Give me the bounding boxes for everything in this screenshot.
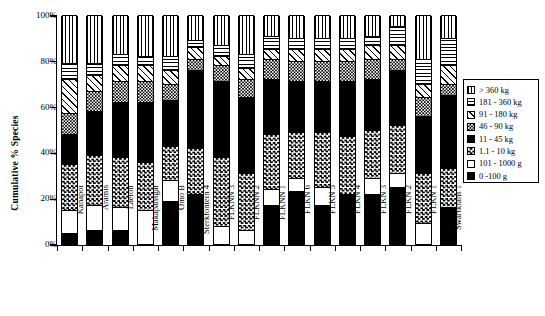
bar-segment: [239, 97, 254, 173]
bar-segment: [113, 102, 128, 157]
x-axis-label-makapansgat: Makapansgat: [149, 185, 161, 251]
bar-segment: [214, 45, 229, 56]
bar-segment: [188, 59, 203, 70]
x-axis-label-flkn-6: FLKN 6: [301, 185, 313, 251]
bar-segment: [264, 15, 279, 36]
bar-segment: [163, 56, 178, 70]
bar-segment: [289, 15, 304, 38]
bar-segment: [62, 134, 77, 164]
bar-segment: [365, 59, 380, 80]
y-axis-ticks: 0%20%40%60%80%100%: [0, 0, 57, 316]
bar-segment: [138, 102, 153, 162]
bar-segment: [264, 134, 279, 189]
bar-segment: [87, 111, 102, 155]
bar-segment: [416, 84, 431, 98]
bar-segment: [264, 79, 279, 134]
legend-swatch-icon: [467, 111, 475, 119]
bar-segment: [62, 63, 77, 79]
bar-segment: [340, 38, 355, 49]
x-axis-label-flknn-3: FLKNN 3: [225, 185, 237, 251]
bar-segment: [214, 81, 229, 157]
bar-segment: [365, 130, 380, 178]
legend-item[interactable]: 1.1 - 10 kg: [467, 145, 535, 157]
bar-segment: [87, 75, 102, 91]
bar-segment: [365, 45, 380, 59]
legend-item[interactable]: 46 - 90 kg: [467, 121, 535, 133]
bar-segment: [441, 15, 456, 38]
bar-segment: [340, 15, 355, 38]
legend-item[interactable]: 91 - 180 kg: [467, 109, 535, 121]
bar-segment: [289, 49, 304, 60]
x-axis-label-swartkrans-1: Swartkrans 1: [452, 185, 464, 251]
x-axis-label-flkn-3: FLKN 3: [377, 185, 389, 251]
legend-swatch-icon: [467, 147, 475, 155]
bar-segment: [138, 56, 153, 65]
bar-segment: [390, 15, 405, 26]
legend-label: 46 - 90 kg: [479, 122, 513, 131]
legend-label: 91 - 180 kg: [479, 110, 517, 119]
legend-item[interactable]: > 360 kg: [467, 84, 535, 96]
x-axis-label-flkn-4: FLKN 4: [351, 185, 363, 251]
legend-item[interactable]: 11 - 45 kg: [467, 133, 535, 145]
x-axis-label-aramis: Aramis: [99, 185, 111, 251]
legend-label: > 360 kg: [479, 86, 509, 95]
bar-segment: [315, 49, 330, 60]
legend-label: 11 - 45 kg: [479, 135, 513, 144]
x-tick-mark: [57, 245, 58, 251]
bar-segment: [239, 15, 254, 54]
bar-segment: [416, 97, 431, 115]
bar-segment: [390, 59, 405, 70]
bar-segment: [365, 15, 380, 36]
bar-segment: [163, 15, 178, 56]
bar-segment: [214, 65, 229, 81]
bar-segment: [87, 15, 102, 63]
legend-swatch-icon: [467, 160, 475, 168]
bar-segment: [289, 38, 304, 49]
bar-segment: [214, 15, 229, 45]
bar-segment: [163, 70, 178, 84]
y-tick-label: 0%: [11, 240, 57, 249]
bar-segment: [239, 68, 254, 79]
bar-segment: [390, 70, 405, 125]
bar-segment: [390, 26, 405, 44]
bar-segment: [214, 56, 229, 65]
bar-segment: [163, 84, 178, 100]
legend-item[interactable]: 181 - 360 kg: [467, 96, 535, 108]
bar-segment: [138, 65, 153, 81]
bar-segment: [188, 70, 203, 148]
y-tick-label: 80%: [11, 57, 57, 66]
stacked-bar-chart-figure: Cumulative % Species 0%20%40%60%80%100% …: [0, 0, 545, 316]
x-axis-label-flkn-5: FLKN 5: [326, 185, 338, 251]
bar-segment: [289, 132, 304, 178]
bar-segment: [113, 81, 128, 102]
x-axis-label-flknn-2: FLKNN 2: [250, 185, 262, 251]
legend-swatch-icon: [467, 123, 475, 131]
bar-segment: [113, 15, 128, 54]
bar-segment: [87, 63, 102, 74]
bar-segment: [188, 15, 203, 40]
legend-label: 181 - 360 kg: [479, 98, 522, 107]
bar-segment: [365, 36, 380, 45]
bar-segment: [289, 81, 304, 131]
bar-segment: [416, 15, 431, 59]
bar-segment: [365, 79, 380, 129]
legend-label: 0 -100 g: [479, 172, 507, 181]
legend-item[interactable]: 0 -100 g: [467, 170, 535, 182]
x-axis-label-sterkfontein-4: Sterkfontein 4: [200, 185, 212, 251]
bar-segment: [62, 79, 77, 113]
x-axis-label-omo-b: Omo B: [175, 185, 187, 251]
legend-item[interactable]: 101 - 1000 g: [467, 158, 535, 170]
bar-segment: [289, 61, 304, 82]
bar-segment: [87, 91, 102, 112]
bar-segment: [315, 38, 330, 49]
y-tick-label: 100%: [11, 11, 57, 20]
bar-segment: [390, 45, 405, 59]
x-axis-label-laetoli: Laetoli: [124, 185, 136, 251]
legend: > 360 kg181 - 360 kg91 - 180 kg46 - 90 k…: [463, 79, 539, 183]
legend-swatch-icon: [467, 98, 475, 106]
bar-segment: [239, 54, 254, 68]
bar-segment: [264, 49, 279, 58]
bar-segment: [340, 81, 355, 136]
bar-segment: [441, 38, 456, 65]
legend-label: 1.1 - 10 kg: [479, 147, 515, 156]
